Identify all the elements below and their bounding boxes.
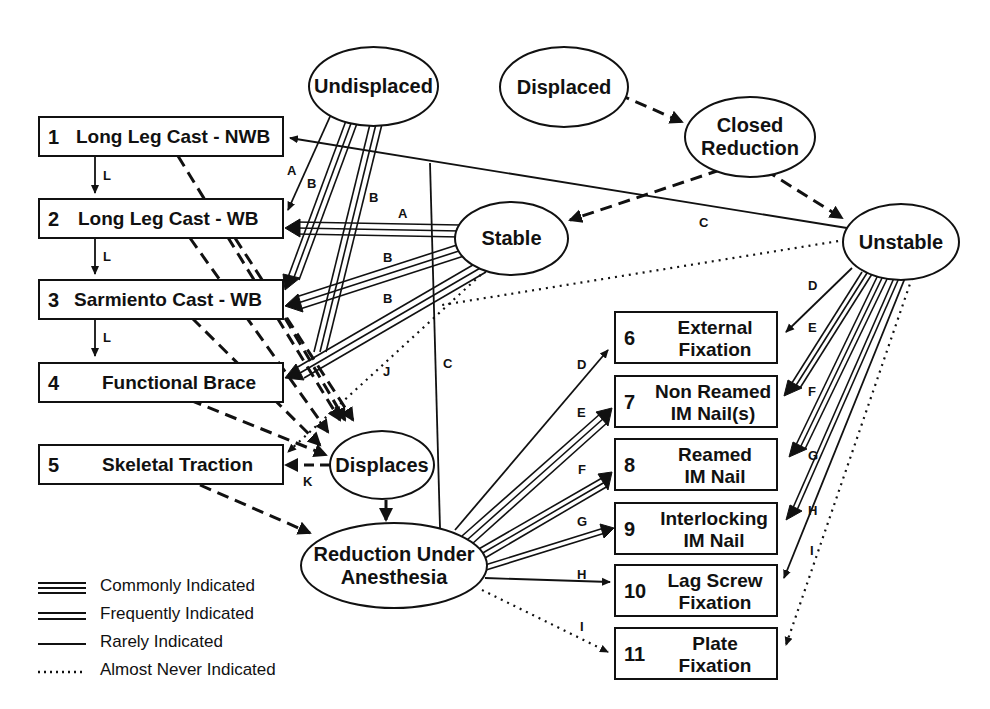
box-label: Long Leg Cast - WB	[78, 208, 258, 230]
ellipse-label: Unstable	[859, 231, 943, 254]
edge-label-h: H	[808, 503, 817, 518]
ellipse-label: Reduction Under Anesthesia	[313, 543, 474, 589]
ellipse-label-line2: Anesthesia	[341, 566, 448, 588]
box-number: 1	[48, 125, 59, 148]
box-non-reamed-im-nails: 7 Non Reamed IM Nail(s)	[614, 375, 778, 428]
box-label: Long Leg Cast - NWB	[76, 126, 270, 148]
box-label: Plate Fixation	[656, 633, 774, 677]
box-label-line2: Fixation	[679, 655, 752, 676]
edge-label-c: C	[443, 356, 452, 371]
box-skeletal-traction: 5 Skeletal Traction	[38, 444, 284, 485]
ellipse-label-line1: Reduction Under	[313, 543, 474, 565]
box-functional-brace: 4 Functional Brace	[38, 362, 284, 403]
box-number: 8	[624, 453, 635, 476]
box-label: Lag Screw Fixation	[656, 570, 774, 614]
box-sarmiento-cast-wb: 3 Sarmiento Cast - WB	[38, 279, 284, 320]
box-number: 2	[48, 207, 59, 230]
box-number: 6	[624, 326, 635, 349]
box-reamed-im-nail: 8 Reamed IM Nail	[614, 438, 778, 491]
edge-label-c: C	[699, 215, 708, 230]
edge-label-l: L	[103, 330, 111, 345]
box-number: 3	[48, 288, 59, 311]
edge-label-g: G	[577, 514, 587, 529]
box-label-line1: Lag Screw	[667, 570, 762, 591]
legend-label: Commonly Indicated	[100, 576, 255, 596]
ellipse-label: Stable	[481, 227, 541, 250]
box-label: Functional Brace	[102, 372, 256, 394]
edge-label-f: F	[578, 462, 586, 477]
ellipse-undisplaced: Undisplaced	[308, 46, 439, 127]
box-long-leg-cast-wb: 2 Long Leg Cast - WB	[38, 198, 284, 239]
box-number: 5	[48, 453, 59, 476]
edge-label-d: D	[808, 278, 817, 293]
edge-label-j: J	[383, 364, 390, 379]
box-label: Reamed IM Nail	[660, 444, 770, 488]
box-external-fixation: 6 External Fixation	[614, 311, 778, 364]
dotted-line-icon	[38, 664, 88, 680]
ellipse-displaces: Displaces	[329, 430, 435, 500]
edge-label-i: I	[810, 543, 814, 558]
legend-label: Frequently Indicated	[100, 604, 254, 624]
box-label: External Fixation	[660, 317, 770, 361]
ellipse-label: Displaces	[335, 454, 428, 477]
box-label: Sarmiento Cast - WB	[74, 289, 262, 311]
box-plate-fixation: 11 Plate Fixation	[614, 627, 778, 680]
box-label-line1: Reamed	[678, 444, 752, 465]
edge-label-b: B	[369, 190, 378, 205]
legend-label: Almost Never Indicated	[100, 660, 276, 680]
box-label-line2: IM Nail	[683, 530, 744, 551]
legend-label: Rarely Indicated	[100, 632, 223, 652]
box-long-leg-cast-nwb: 1 Long Leg Cast - NWB	[38, 116, 284, 157]
box-number: 9	[624, 517, 635, 540]
box-number: 4	[48, 371, 59, 394]
connectors	[0, 0, 990, 709]
edge-label-a: A	[287, 163, 296, 178]
triple-line-icon	[38, 580, 88, 596]
edge-label-h: H	[577, 567, 586, 582]
box-label-line1: Interlocking	[660, 508, 768, 529]
ellipse-reduction-under-anesthesia: Reduction Under Anesthesia	[300, 522, 488, 609]
edge-label-a: A	[398, 206, 407, 221]
box-label: Skeletal Traction	[102, 454, 253, 476]
ellipse-label-line2: Reduction	[701, 137, 799, 159]
box-label-line2: Fixation	[679, 592, 752, 613]
edge-label-l: L	[103, 168, 111, 183]
box-label: Non Reamed IM Nail(s)	[650, 381, 776, 425]
ellipse-label: Closed Reduction	[701, 114, 799, 160]
box-number: 11	[624, 642, 645, 665]
edge-label-k: K	[303, 474, 312, 489]
box-label-line1: External	[678, 317, 753, 338]
box-interlocking-im-nail: 9 Interlocking IM Nail	[614, 502, 778, 555]
single-line-icon	[38, 636, 88, 652]
box-label-line1: Plate	[692, 633, 737, 654]
edge-label-b: B	[307, 176, 316, 191]
ellipse-displaced: Displaced	[499, 46, 629, 128]
ellipse-stable: Stable	[454, 201, 569, 276]
edge-label-f: F	[808, 384, 816, 399]
edge-label-g: G	[808, 448, 818, 463]
ellipse-label-line1: Closed	[717, 114, 784, 136]
double-line-icon	[38, 608, 88, 624]
edge-label-b: B	[383, 291, 392, 306]
box-number: 7	[624, 390, 635, 413]
box-label-line1: Non Reamed	[655, 381, 771, 402]
edge-label-d: D	[577, 357, 586, 372]
edge-label-e: E	[577, 405, 586, 420]
box-label-line2: Fixation	[679, 339, 752, 360]
box-label: Interlocking IM Nail	[652, 508, 776, 552]
ellipse-label: Undisplaced	[314, 75, 433, 98]
ellipse-unstable: Unstable	[842, 203, 960, 281]
fracture-treatment-diagram: 1 Long Leg Cast - NWB 2 Long Leg Cast - …	[0, 0, 990, 709]
edge-label-e: E	[808, 320, 817, 335]
edge-label-i: I	[580, 619, 584, 634]
box-number: 10	[624, 579, 646, 602]
box-label-line2: IM Nail	[684, 466, 745, 487]
box-lag-screw-fixation: 10 Lag Screw Fixation	[614, 564, 778, 617]
ellipse-closed-reduction: Closed Reduction	[684, 96, 816, 178]
box-label-line2: IM Nail(s)	[671, 403, 755, 424]
edge-label-b: B	[383, 250, 392, 265]
ellipse-label: Displaced	[517, 76, 611, 99]
edge-label-l: L	[103, 249, 111, 264]
